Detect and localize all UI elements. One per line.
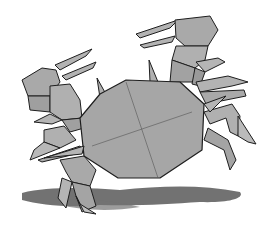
ground-shadow xyxy=(22,187,241,210)
origami-crab-illustration xyxy=(0,0,271,229)
right-legs xyxy=(196,76,256,170)
crab-drawing xyxy=(0,0,271,229)
spike xyxy=(149,60,158,82)
